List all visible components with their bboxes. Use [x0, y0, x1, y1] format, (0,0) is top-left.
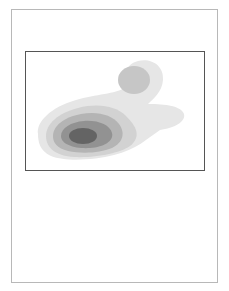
- contour-level-5-peak: [69, 128, 97, 144]
- contour-plot-frame: [25, 51, 205, 171]
- contour-plot: [26, 52, 205, 171]
- contour-secondary-peak: [118, 66, 150, 94]
